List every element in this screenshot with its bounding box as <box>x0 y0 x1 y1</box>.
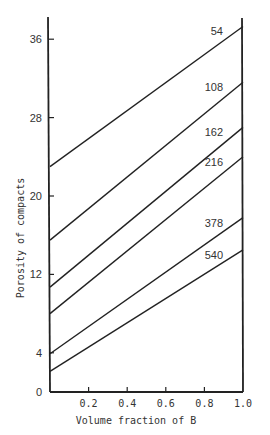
series-label-54: 54 <box>211 25 223 37</box>
series-line-54 <box>50 26 243 166</box>
y-axis-label: Porosity of compacts <box>15 178 26 298</box>
series-line-216 <box>50 157 243 314</box>
x-tick-label: 0.6 <box>157 398 175 409</box>
series-line-162 <box>50 127 243 287</box>
series-line-378 <box>50 218 243 354</box>
series-labels: 54108162216378540 <box>205 25 223 260</box>
series-line-540 <box>50 250 243 372</box>
y-axis-left <box>48 17 50 392</box>
series-lines <box>50 26 243 371</box>
y-tick-label: 12 <box>30 268 42 280</box>
y-tick-label: 20 <box>30 190 42 202</box>
axes <box>48 17 243 392</box>
series-label-540: 540 <box>205 249 223 261</box>
x-tick-label: 0.2 <box>80 398 98 409</box>
x-tick-label: 0.4 <box>118 398 136 409</box>
x-axis-label: Volume fraction of B <box>76 415 196 426</box>
series-label-162: 162 <box>205 126 223 138</box>
x-tick-label: 1.0 <box>234 398 252 409</box>
x-axis-ticks: 0.20.40.60.81.0 <box>80 387 252 409</box>
y-tick-label: 4 <box>36 347 42 359</box>
porosity-chart: 0412202836 0.20.40.60.81.0 5410816221637… <box>0 0 270 435</box>
y-tick-label: 28 <box>30 112 42 124</box>
series-label-216: 216 <box>205 156 223 168</box>
right-boundary <box>242 18 243 392</box>
x-tick-label: 0.8 <box>195 398 213 409</box>
y-tick-label: 0 <box>36 386 42 398</box>
y-tick-label: 36 <box>30 33 42 45</box>
series-label-378: 378 <box>205 217 223 229</box>
series-label-108: 108 <box>205 81 223 93</box>
